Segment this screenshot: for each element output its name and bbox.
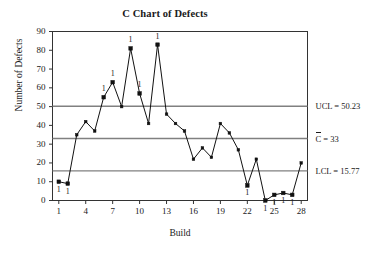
y-tick-label: 50 xyxy=(20,102,46,111)
violation-label: 1 xyxy=(108,70,118,78)
y-axis-label: Number of Defects xyxy=(14,20,24,130)
defects-series-markers xyxy=(57,43,303,202)
x-axis-label: Build xyxy=(52,228,308,238)
y-tick-label: 20 xyxy=(20,158,46,167)
x-tick-label: 4 xyxy=(74,207,98,216)
chart-title: C Chart of Defects xyxy=(0,8,330,19)
x-tick-label: 10 xyxy=(128,207,152,216)
axes-frame xyxy=(53,32,308,201)
x-tick-label: 1 xyxy=(47,207,71,216)
x-tick-label: 28 xyxy=(289,207,313,216)
y-tick-label: 0 xyxy=(20,196,46,205)
violation-label: 1 xyxy=(242,189,252,197)
x-tick-label: 13 xyxy=(155,207,179,216)
y-tick-label: 90 xyxy=(20,27,46,36)
chart-plot-area xyxy=(0,0,387,257)
y-tick-label: 80 xyxy=(20,46,46,55)
x-tick-label: 16 xyxy=(181,207,205,216)
violation-label: 1 xyxy=(153,33,163,41)
control-limit-lines xyxy=(53,106,308,171)
violation-label: 1 xyxy=(63,188,73,196)
defects-series-line xyxy=(59,45,301,201)
control-limit-label-center: C = 33 xyxy=(316,134,339,144)
y-tick-label: 60 xyxy=(20,83,46,92)
violation-label: 1 xyxy=(135,81,145,89)
y-tick-label: 10 xyxy=(20,177,46,186)
y-tick-label: 40 xyxy=(20,121,46,130)
control-limit-label-lcl: LCL = 15.77 xyxy=(316,166,360,176)
c-chart-figure: C Chart of Defects Number of Defects Bui… xyxy=(0,0,387,257)
axis-ticks xyxy=(49,32,301,205)
x-tick-label: 7 xyxy=(101,207,125,216)
x-tick-label: 22 xyxy=(235,207,259,216)
y-tick-label: 70 xyxy=(20,65,46,74)
violation-label: 1 xyxy=(126,36,136,44)
control-limit-label-ucl: UCL = 50.23 xyxy=(316,101,361,111)
violation-label: 1 xyxy=(99,85,109,93)
violation-label: 1 xyxy=(287,199,297,207)
x-tick-label: 19 xyxy=(208,207,232,216)
y-tick-label: 30 xyxy=(20,140,46,149)
center-line-symbol: C xyxy=(316,134,322,144)
